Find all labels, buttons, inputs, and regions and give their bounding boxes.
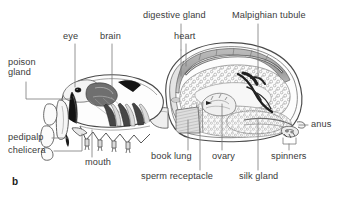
label-silk-gland: silk gland bbox=[239, 171, 278, 181]
cephalothorax-group bbox=[41, 75, 164, 161]
eye-shape bbox=[75, 88, 81, 92]
label-pedipalp: pedipalp bbox=[8, 132, 44, 142]
label-sperm-receptacle: sperm receptacle bbox=[141, 171, 213, 181]
mouth-shape bbox=[72, 128, 87, 136]
figure-letter: b bbox=[12, 176, 18, 187]
label-poison-gland: poison gland bbox=[8, 57, 56, 78]
label-spinners: spinners bbox=[271, 151, 307, 161]
label-mouth: mouth bbox=[85, 157, 111, 167]
label-poison-gland-line1: poison bbox=[8, 57, 36, 67]
label-digestive-gland: digestive gland bbox=[143, 10, 206, 20]
label-heart: heart bbox=[174, 31, 195, 41]
label-ovary: ovary bbox=[212, 151, 235, 161]
label-book-lung: book lung bbox=[151, 151, 192, 161]
label-anus: anus bbox=[311, 119, 331, 129]
label-eye: eye bbox=[63, 31, 78, 41]
label-malpighian-tubule: Malpighian tubule bbox=[232, 10, 306, 20]
label-poison-gland-line2: gland bbox=[8, 67, 31, 77]
label-brain: brain bbox=[100, 31, 121, 41]
spider-anatomy-illustration bbox=[0, 0, 339, 198]
spider-anatomy-figure: poison gland eye brain digestive gland h… bbox=[0, 0, 339, 198]
abdomen-group bbox=[166, 43, 305, 142]
label-chelicera: chelicera bbox=[8, 145, 46, 155]
leader-spinners-bracket bbox=[283, 138, 296, 144]
spinnerets-shape bbox=[281, 126, 298, 138]
